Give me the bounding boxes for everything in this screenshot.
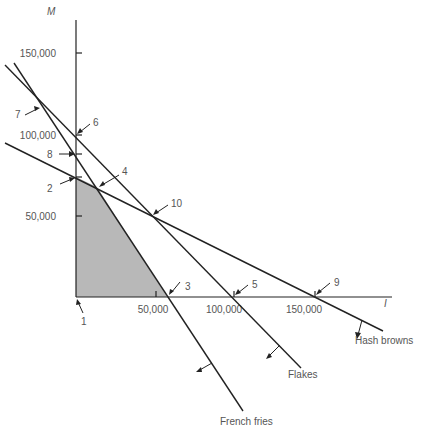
svg-text:2: 2 xyxy=(47,183,53,194)
point-marker-1: 1 xyxy=(76,299,87,327)
french-fries-direction-arrow xyxy=(196,363,212,372)
point-marker-3: 3 xyxy=(169,281,191,295)
point-marker-9: 9 xyxy=(316,277,340,295)
svg-text:3: 3 xyxy=(185,281,191,292)
y-tick-label: 150,000 xyxy=(20,48,57,59)
svg-text:1: 1 xyxy=(81,316,87,327)
y-axis-label: M xyxy=(47,6,56,17)
y-tick-label: 50,000 xyxy=(25,211,56,222)
x-axis-label: I xyxy=(384,298,387,309)
french-fries-label: French fries xyxy=(220,416,273,427)
point-marker-7: 7 xyxy=(15,106,40,120)
x-tick-label: 50,000 xyxy=(138,304,169,315)
point-marker-8: 8 xyxy=(47,149,75,160)
point-marker-6: 6 xyxy=(77,117,99,134)
french-fries-line xyxy=(14,63,243,411)
svg-text:8: 8 xyxy=(47,149,53,160)
lp-diagram: M I 150,000 100,000 50,000 50,000 100,00… xyxy=(0,0,426,430)
point-marker-5: 5 xyxy=(235,279,258,295)
x-tick-label: 150,000 xyxy=(286,304,323,315)
svg-text:5: 5 xyxy=(252,279,258,290)
svg-text:9: 9 xyxy=(334,277,340,288)
svg-text:6: 6 xyxy=(93,117,99,128)
flakes-label: Flakes xyxy=(288,369,317,380)
svg-text:7: 7 xyxy=(15,109,21,120)
point-marker-10: 10 xyxy=(153,198,183,215)
svg-text:4: 4 xyxy=(122,166,128,177)
y-tick-label: 100,000 xyxy=(20,130,57,141)
feasible-region xyxy=(76,177,167,297)
x-tick-label: 100,000 xyxy=(206,304,243,315)
hash-browns-label: Hash browns xyxy=(355,335,413,346)
flakes-direction-arrow xyxy=(266,345,280,359)
hash-browns-line xyxy=(5,143,383,331)
svg-text:10: 10 xyxy=(171,198,183,209)
point-marker-2: 2 xyxy=(47,177,75,194)
